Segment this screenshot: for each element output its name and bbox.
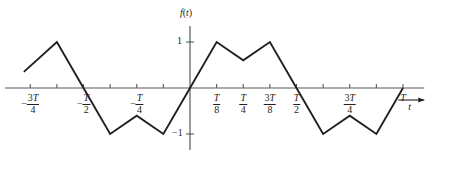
x-tick-label: −3T4 bbox=[21, 93, 39, 115]
x-tick-label: T8 bbox=[213, 93, 221, 115]
x-tick-label: −T2 bbox=[77, 93, 90, 115]
x-tick-label: −T4 bbox=[130, 93, 143, 115]
x-tick-label: T bbox=[400, 93, 406, 103]
y-tick-label-negative-one: −1 bbox=[172, 128, 183, 138]
x-tick-label: T4 bbox=[239, 93, 247, 115]
x-tick-label: T2 bbox=[293, 93, 301, 115]
waveform-chart: −3T4−T2−T4T8T43T8T23T4T1−1f(t)t bbox=[0, 0, 450, 186]
t-axis-arrow-head bbox=[418, 98, 424, 103]
x-tick-label: 3T4 bbox=[343, 93, 356, 115]
x-tick-label: 3T8 bbox=[264, 93, 277, 115]
y-axis-label: f(t) bbox=[180, 8, 192, 18]
y-tick-label-positive-one: 1 bbox=[177, 36, 182, 46]
chart-canvas bbox=[0, 0, 450, 186]
x-axis-label: t bbox=[408, 102, 411, 112]
